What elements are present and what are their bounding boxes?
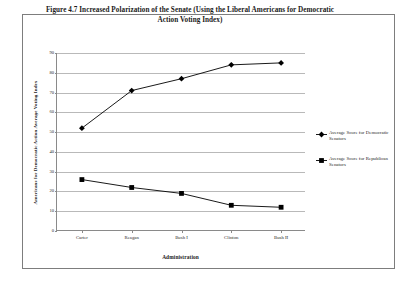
y-tick-label: 80 xyxy=(49,70,54,75)
y-tick-label: 60 xyxy=(49,110,54,115)
y-axis-title: Americans for Democratic Action Average … xyxy=(31,53,41,231)
legend-entry: Average Score for Democratic Senators xyxy=(316,130,392,143)
y-tick-label: 50 xyxy=(49,130,54,135)
x-axis-title: Administration xyxy=(56,254,305,260)
x-tick-label: Bush I xyxy=(175,235,188,240)
data-point-marker xyxy=(129,185,134,190)
y-tick-label: 40 xyxy=(49,150,54,155)
y-tick-label: 90 xyxy=(49,51,54,56)
x-tick-label: Carter xyxy=(76,235,88,240)
data-point-marker xyxy=(179,191,184,196)
legend-square-icon xyxy=(316,158,327,163)
legend-label: Average Score for Republican Senators xyxy=(329,156,392,169)
y-tick-label: 30 xyxy=(49,169,54,174)
data-point-marker xyxy=(319,132,325,138)
data-point-marker xyxy=(228,62,234,68)
data-point-marker xyxy=(279,205,284,210)
y-tick-label: 0 xyxy=(52,229,54,234)
y-tick-label: 70 xyxy=(49,90,54,95)
data-series-layer xyxy=(57,53,306,231)
plot-area: 0102030405060708090 CarterReaganBush ICl… xyxy=(56,53,305,231)
series-line xyxy=(82,63,281,128)
y-axis-title-label: Americans for Democratic Action Average … xyxy=(34,80,39,204)
chart-legend: Average Score for Democratic SenatorsAve… xyxy=(316,130,392,182)
y-tick-label: 20 xyxy=(49,189,54,194)
x-tick-label: Reagan xyxy=(124,235,138,240)
data-point-marker xyxy=(229,203,234,208)
data-point-marker xyxy=(80,177,85,182)
legend-diamond-icon xyxy=(316,132,327,137)
x-tick-label: Clinton xyxy=(224,235,238,240)
legend-label: Average Score for Democratic Senators xyxy=(329,130,392,143)
data-point-marker xyxy=(179,76,185,82)
x-tick-label: Bush II xyxy=(274,235,288,240)
chart-title: Figure 4.7 Increased Polarization of the… xyxy=(40,6,340,25)
y-tick-label: 10 xyxy=(49,209,54,214)
data-point-marker xyxy=(319,158,324,163)
y-tick-mark xyxy=(55,231,58,232)
data-point-marker xyxy=(278,60,284,66)
legend-entry: Average Score for Republican Senators xyxy=(316,156,392,169)
